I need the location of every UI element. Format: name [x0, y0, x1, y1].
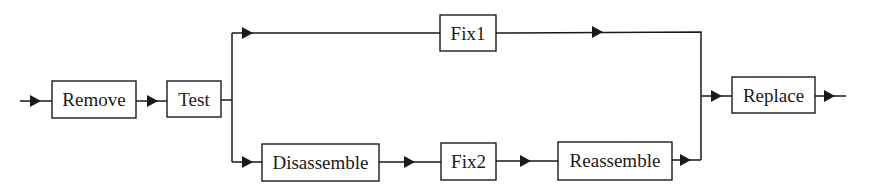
arrow-icon: [147, 95, 158, 107]
arrow-icon: [680, 154, 691, 166]
node-label: Fix1: [451, 23, 486, 44]
node-label: Disassemble: [272, 152, 368, 173]
node-label: Fix2: [451, 151, 486, 172]
arrow-icon: [824, 90, 835, 102]
node-remove: Remove: [52, 81, 136, 118]
node-label: Replace: [743, 85, 804, 106]
node-label: Reassemble: [570, 150, 661, 171]
arrow-icon: [520, 155, 531, 167]
arrow-icon: [242, 156, 253, 168]
node-label: Test: [178, 89, 210, 110]
node-disassemble: Disassemble: [262, 144, 379, 181]
node-replace: Replace: [732, 77, 815, 113]
connectors: [20, 26, 846, 168]
arrow-icon: [242, 27, 253, 39]
node-fix2: Fix2: [441, 143, 496, 180]
arrow-icon: [711, 90, 722, 102]
node-test: Test: [167, 81, 221, 117]
node-reassemble: Reassemble: [558, 142, 672, 180]
flow-diagram: Remove Test Fix1 Disassemble Fix2 Reasse…: [0, 0, 869, 196]
node-label: Remove: [62, 89, 125, 110]
node-fix1: Fix1: [440, 15, 496, 51]
arrow-icon: [404, 156, 415, 168]
fix1-merge-connector: [496, 32, 701, 160]
arrow-icon: [592, 26, 603, 38]
arrow-icon: [30, 95, 41, 107]
